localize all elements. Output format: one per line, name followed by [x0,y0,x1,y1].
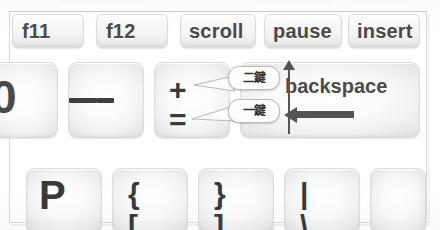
equals-glyph: = [169,105,187,135]
key-scroll[interactable]: scroll [180,14,256,48]
key-pause[interactable]: pause [264,14,342,48]
callout-two-key-text: 二鍵 [243,72,265,84]
key-f12[interactable]: f12 [96,14,168,48]
up-arrow-shaft-icon [288,64,290,134]
key-insert[interactable]: insert [348,14,420,48]
cropped-row-ghost-right [352,0,402,3]
key-right-brace[interactable]: } ] [198,168,274,230]
cropped-row-ghost-left [58,0,144,5]
key-pipe[interactable]: | \ [284,168,360,230]
key-zero-glyph: 0 [0,74,17,120]
underscore-glyph [69,98,97,103]
key-minus-underscore[interactable] [68,62,144,138]
key-p-glyph: P [39,175,66,215]
key-left-brace[interactable]: { [ [112,168,188,230]
key-pipe-lower-glyph: \ [300,211,308,230]
key-pause-label: pause [265,21,332,41]
callout-two-key: 二鍵 [228,66,280,90]
hyphen-glyph [97,98,114,103]
left-arrow-head-icon [284,107,297,123]
plus-glyph: + [169,75,187,105]
key-left-brace-lower-glyph: [ [128,211,138,230]
key-zero-partial[interactable]: 0 [0,62,58,138]
key-edge-partial[interactable] [370,168,426,230]
callout-one-key: 一鍵 [228,99,280,123]
key-f11[interactable]: f11 [12,14,84,48]
key-f12-label: f12 [97,21,136,41]
up-arrow-head-icon [283,60,295,70]
key-scroll-label: scroll [181,21,244,41]
cropped-row-ghost-mid [262,0,332,3]
key-left-brace-upper-glyph: { [128,179,140,209]
key-insert-label: insert [349,21,413,41]
key-backspace-label: backspace [285,75,387,98]
key-right-brace-upper-glyph: } [214,179,226,209]
key-pipe-upper-glyph: | [300,179,308,209]
callout-one-key-text: 一鍵 [243,105,265,117]
key-p[interactable]: P [26,168,102,230]
keyboard-diagram-scan: f11 f12 scroll pause insert 0 + = backsp… [0,0,440,230]
left-arrow-shaft-icon [296,111,354,118]
key-right-brace-lower-glyph: ] [214,211,224,230]
key-f11-label: f11 [13,21,50,41]
